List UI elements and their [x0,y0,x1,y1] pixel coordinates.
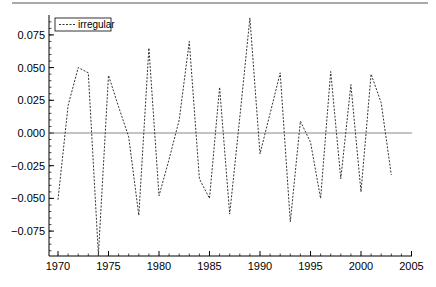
x-tick-label: 2005 [399,260,423,272]
y-tick-label: 0.000 [17,127,45,139]
x-tick-label: 1985 [197,260,221,272]
legend-label: irregular [78,19,115,30]
y-tick-label: 0.025 [17,94,45,106]
y-tick-label: −0.025 [11,160,45,172]
irregular-line-chart: 0.0750.0500.0250.000−0.025−0.050−0.07519… [0,0,436,287]
x-tick-label: 2000 [349,260,373,272]
y-tick-label: 0.050 [17,62,45,74]
x-tick-label: 1975 [96,260,120,272]
x-tick-label: 1995 [298,260,322,272]
legend: irregular [55,18,115,31]
x-tick-label: 1990 [248,260,272,272]
y-tick-label: −0.075 [11,225,45,237]
y-tick-label: 0.075 [17,29,45,41]
series-line-irregular [58,18,391,255]
series-irregular [58,18,391,255]
axes: 0.0750.0500.0250.000−0.025−0.050−0.07519… [11,15,424,272]
x-tick-label: 1980 [147,260,171,272]
y-tick-label: −0.050 [11,192,45,204]
x-tick-label: 1970 [46,260,70,272]
